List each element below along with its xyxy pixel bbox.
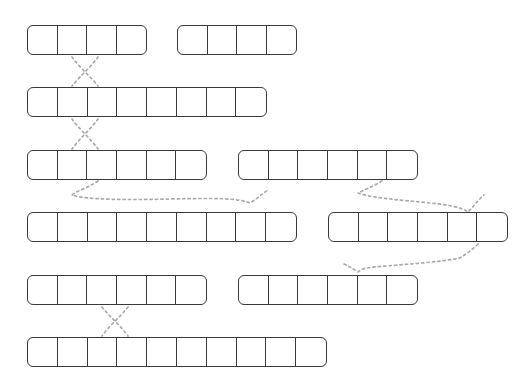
connector-path — [358, 181, 484, 212]
strip-cell[interactable] — [28, 151, 58, 179]
cell-strip[interactable] — [27, 87, 267, 117]
strip-cell[interactable] — [117, 151, 147, 179]
strip-cell[interactable] — [28, 213, 58, 241]
strip-cell[interactable] — [448, 213, 478, 241]
strip-cell[interactable] — [387, 276, 417, 304]
strip-cell[interactable] — [236, 88, 266, 116]
strip-cell[interactable] — [88, 88, 118, 116]
connector-path — [72, 119, 98, 149]
strip-cell[interactable] — [28, 276, 58, 304]
cell-strip[interactable] — [328, 212, 508, 242]
strip-cell[interactable] — [28, 338, 58, 366]
strip-cell[interactable] — [117, 338, 147, 366]
strip-cell[interactable] — [266, 338, 296, 366]
diagram-canvas — [0, 0, 532, 386]
strip-cell[interactable] — [117, 276, 147, 304]
strip-cell[interactable] — [207, 213, 237, 241]
strip-cell[interactable] — [177, 88, 207, 116]
strip-cell[interactable] — [58, 26, 88, 54]
strip-cell[interactable] — [87, 276, 117, 304]
strip-cell[interactable] — [388, 213, 418, 241]
strip-cell[interactable] — [87, 151, 117, 179]
strip-cell[interactable] — [239, 151, 269, 179]
strip-cell[interactable] — [147, 151, 177, 179]
strip-cell[interactable] — [237, 26, 267, 54]
strip-cell[interactable] — [147, 338, 177, 366]
strip-cell[interactable] — [296, 338, 326, 366]
strip-cell[interactable] — [298, 151, 328, 179]
strip-cell[interactable] — [329, 213, 359, 241]
strip-cell[interactable] — [117, 88, 147, 116]
strip-cell[interactable] — [147, 213, 177, 241]
strip-cell[interactable] — [117, 213, 147, 241]
strip-cell[interactable] — [239, 276, 269, 304]
strip-cell[interactable] — [269, 276, 299, 304]
strip-cell[interactable] — [28, 88, 58, 116]
strip-cell[interactable] — [236, 213, 266, 241]
strip-cell[interactable] — [117, 26, 146, 54]
strip-cell[interactable] — [58, 213, 88, 241]
strip-cell[interactable] — [358, 276, 388, 304]
strip-cell[interactable] — [358, 151, 388, 179]
strip-cell[interactable] — [178, 26, 208, 54]
strip-cell[interactable] — [88, 338, 118, 366]
cell-strip[interactable] — [177, 25, 297, 55]
strip-cell[interactable] — [208, 26, 238, 54]
strip-cell[interactable] — [147, 276, 177, 304]
cell-strip[interactable] — [27, 150, 207, 180]
strip-cell[interactable] — [207, 338, 237, 366]
strip-cell[interactable] — [477, 213, 507, 241]
strip-cell[interactable] — [28, 26, 58, 54]
cell-strip[interactable] — [27, 275, 207, 305]
cell-strip[interactable] — [238, 275, 418, 305]
strip-cell[interactable] — [58, 88, 88, 116]
strip-cell[interactable] — [147, 88, 177, 116]
strip-cell[interactable] — [58, 276, 88, 304]
connector-path — [72, 57, 98, 86]
cell-strip[interactable] — [27, 25, 147, 55]
strip-cell[interactable] — [177, 338, 207, 366]
strip-cell[interactable] — [88, 213, 118, 241]
strip-cell[interactable] — [387, 151, 417, 179]
strip-cell[interactable] — [298, 276, 328, 304]
strip-cell[interactable] — [176, 276, 206, 304]
strip-cell[interactable] — [207, 88, 237, 116]
strip-cell[interactable] — [269, 151, 299, 179]
strip-cell[interactable] — [266, 213, 296, 241]
strip-cell[interactable] — [328, 276, 358, 304]
connector-path — [102, 307, 128, 336]
connector-layer — [0, 0, 532, 386]
strip-cell[interactable] — [328, 151, 358, 179]
strip-cell[interactable] — [237, 338, 267, 366]
strip-cell[interactable] — [177, 213, 207, 241]
cell-strip[interactable] — [238, 150, 418, 180]
connector-path — [342, 244, 478, 272]
strip-cell[interactable] — [359, 213, 389, 241]
cell-strip[interactable] — [27, 337, 327, 367]
strip-cell[interactable] — [58, 151, 88, 179]
strip-cell[interactable] — [267, 26, 296, 54]
connector-path — [72, 181, 268, 203]
strip-cell[interactable] — [87, 26, 117, 54]
strip-cell[interactable] — [176, 151, 206, 179]
strip-cell[interactable] — [418, 213, 448, 241]
strip-cell[interactable] — [58, 338, 88, 366]
cell-strip[interactable] — [27, 212, 297, 242]
